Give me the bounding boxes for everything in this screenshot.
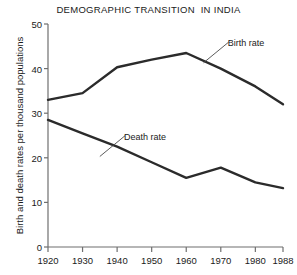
x-tick-label: 1960 <box>176 255 197 266</box>
x-tick-label: 1930 <box>72 255 93 266</box>
y-tick-label: 50 <box>16 19 42 30</box>
x-tick-label: 1970 <box>210 255 231 266</box>
series-line-birth-rate <box>48 53 283 104</box>
x-tick-label: 1980 <box>245 255 266 266</box>
y-tick-label: 10 <box>16 197 42 208</box>
x-tick-label: 1988 <box>272 255 293 266</box>
leader-line-birth-rate <box>204 42 229 63</box>
y-tick-label: 30 <box>16 108 42 119</box>
chart-container: DEMOGRAPHIC TRANSITION IN INDIA Birth an… <box>0 0 297 275</box>
annotation-birth-rate: Birth rate <box>228 38 265 48</box>
annotation-death-rate: Death rate <box>124 132 166 142</box>
series-line-death-rate <box>48 120 283 188</box>
x-tick-label: 1920 <box>37 255 58 266</box>
x-tick-label: 1950 <box>141 255 162 266</box>
leader-line-death-rate <box>100 136 125 157</box>
x-tick-marks <box>48 247 283 252</box>
y-tick-label: 20 <box>16 152 42 163</box>
x-tick-label: 1940 <box>107 255 128 266</box>
data-series-group <box>48 53 283 188</box>
y-tick-label: 40 <box>16 63 42 74</box>
y-tick-label: 0 <box>16 242 42 253</box>
